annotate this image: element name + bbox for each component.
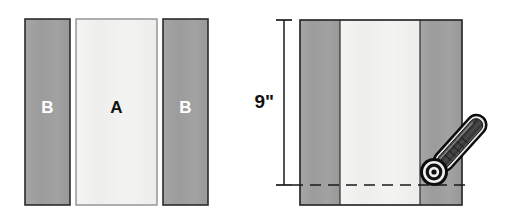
strip-b-right: B	[163, 19, 208, 205]
strip-b-right-label: B	[179, 98, 191, 117]
rotary-cutter-blade	[420, 158, 448, 186]
left-figure-group: B A B	[25, 19, 208, 205]
diagram-svg: B A B	[0, 0, 522, 224]
strip-b-left: B	[25, 19, 70, 205]
joined-strip-b-left	[300, 20, 340, 205]
blade-axle-center	[431, 169, 436, 174]
dimension-label: 9"	[254, 91, 274, 112]
strip-a-center-label: A	[110, 98, 122, 117]
strip-a-center: A	[76, 19, 157, 205]
joined-strip-a-center	[340, 20, 420, 205]
strip-b-left-label: B	[41, 98, 53, 117]
right-figure-group: 9"	[254, 20, 491, 205]
height-dimension: 9"	[254, 20, 292, 185]
diagram-canvas: B A B	[0, 0, 522, 224]
